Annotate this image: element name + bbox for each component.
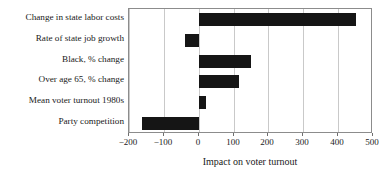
- x-tick-0: [198, 133, 199, 136]
- x-tick-label-300: 300: [295, 137, 309, 147]
- plot-area: [128, 8, 372, 133]
- bar-4: [199, 96, 207, 109]
- bar-3: [199, 75, 240, 88]
- x-axis-title: Impact on voter turnout: [128, 156, 372, 168]
- x-tick-label--100: −100: [154, 137, 173, 147]
- category-label-1: Rate of state job growth: [0, 33, 124, 43]
- x-tick-500: [372, 133, 373, 136]
- gridline--200: [129, 9, 130, 132]
- x-tick-400: [337, 133, 338, 136]
- x-tick-label--200: −200: [119, 137, 138, 147]
- category-axis-labels: Change in state labor costs Rate of stat…: [0, 8, 124, 133]
- category-label-5: Party competition: [0, 116, 124, 126]
- gridline-0: [199, 9, 200, 132]
- gridline--100: [164, 9, 165, 132]
- x-tick-label-400: 400: [330, 137, 344, 147]
- category-label-4: Mean voter turnout 1980s: [0, 95, 124, 105]
- x-tick--100: [163, 133, 164, 136]
- bar-1: [185, 34, 199, 47]
- category-label-3: Over age 65, % change: [0, 74, 124, 84]
- category-label-2: Black, % change: [0, 54, 124, 64]
- bar-2: [199, 55, 251, 68]
- x-tick-200: [267, 133, 268, 136]
- x-tick--200: [128, 133, 129, 136]
- x-tick-label-100: 100: [226, 137, 240, 147]
- x-tick-label-200: 200: [260, 137, 274, 147]
- bar-5: [142, 117, 199, 130]
- x-tick-300: [302, 133, 303, 136]
- category-label-0: Change in state labor costs: [0, 12, 124, 22]
- x-tick-label-0: 0: [196, 137, 201, 147]
- bar-chart-figure: Change in state labor costs Rate of stat…: [0, 0, 382, 173]
- x-tick-100: [233, 133, 234, 136]
- gridline-400: [338, 9, 339, 132]
- gridline-200: [268, 9, 269, 132]
- gridline-100: [234, 9, 235, 132]
- bar-0: [199, 13, 357, 26]
- gridline-300: [303, 9, 304, 132]
- x-axis: −200−1000100200300400500: [128, 133, 372, 155]
- x-tick-label-500: 500: [365, 137, 379, 147]
